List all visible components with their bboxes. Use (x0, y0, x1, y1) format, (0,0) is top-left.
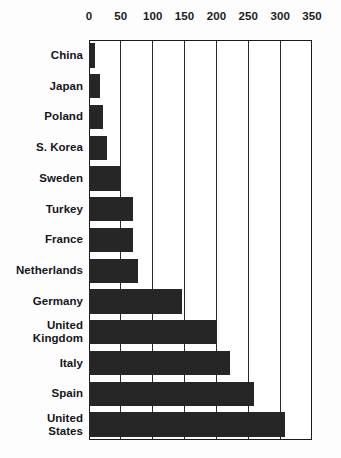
category-label-line: Kingdom (33, 332, 83, 345)
bar-poland (89, 105, 103, 129)
category-label-s-korea: S. Korea (0, 132, 83, 163)
category-label-italy: Italy (0, 348, 83, 379)
bar-japan (89, 74, 100, 98)
category-label-line: Turkey (46, 203, 83, 216)
bar-turkey (89, 197, 133, 221)
bar-sweden (89, 166, 121, 190)
x-tick-label-250: 250 (239, 10, 259, 22)
category-label-line: Sweden (39, 172, 83, 185)
x-tick-label-100: 100 (143, 10, 163, 22)
category-label-germany: Germany (0, 286, 83, 317)
category-label-line: United (47, 319, 83, 332)
bar-row (89, 412, 312, 436)
category-label-united-states: UnitedStates (0, 409, 83, 440)
bar-chart: 050100150200250300350 ChinaJapanPolandS.… (0, 0, 341, 458)
bar-row (89, 74, 312, 98)
category-label-netherlands: Netherlands (0, 255, 83, 286)
bar-row (89, 228, 312, 252)
category-label-poland: Poland (0, 102, 83, 133)
bar-row (89, 43, 312, 67)
bar-s-korea (89, 136, 107, 160)
category-label-line: S. Korea (36, 141, 83, 154)
bar-row (89, 382, 312, 406)
category-label-line: Japan (50, 80, 84, 93)
category-label-line: France (45, 233, 83, 246)
category-label-china: China (0, 40, 83, 71)
x-tick-label-0: 0 (86, 10, 93, 22)
category-label-line: Netherlands (16, 264, 83, 277)
bar-row (89, 197, 312, 221)
bar-china (89, 43, 95, 67)
x-tick-label-300: 300 (270, 10, 290, 22)
bar-row (89, 105, 312, 129)
category-label-sweden: Sweden (0, 163, 83, 194)
category-label-line: Spain (51, 387, 83, 400)
bars-layer (89, 40, 312, 440)
bar-row (89, 136, 312, 160)
category-label-france: France (0, 225, 83, 256)
category-axis-labels: ChinaJapanPolandS. KoreaSwedenTurkeyFran… (0, 40, 83, 440)
category-label-line: States (48, 425, 83, 438)
bar-row (89, 320, 312, 344)
bar-netherlands (89, 259, 138, 283)
x-axis-tick-labels: 050100150200250300350 (0, 0, 341, 30)
category-label-line: Germany (33, 295, 83, 308)
bar-united-states (89, 412, 285, 436)
x-tick-label-150: 150 (175, 10, 195, 22)
bar-germany (89, 289, 182, 313)
bar-united-kingdom (89, 320, 216, 344)
bar-france (89, 228, 133, 252)
bar-row (89, 259, 312, 283)
category-label-spain: Spain (0, 378, 83, 409)
bar-row (89, 351, 312, 375)
category-label-line: China (51, 49, 83, 62)
x-tick-label-200: 200 (207, 10, 227, 22)
bar-row (89, 289, 312, 313)
category-label-turkey: Turkey (0, 194, 83, 225)
x-tick-label-350: 350 (302, 10, 322, 22)
category-label-japan: Japan (0, 71, 83, 102)
x-tick-label-50: 50 (114, 10, 127, 22)
category-label-united-kingdom: UnitedKingdom (0, 317, 83, 348)
bar-italy (89, 351, 230, 375)
bar-row (89, 166, 312, 190)
bar-spain (89, 382, 254, 406)
category-label-line: Italy (60, 357, 83, 370)
category-label-line: United (47, 412, 83, 425)
category-label-line: Poland (44, 110, 83, 123)
